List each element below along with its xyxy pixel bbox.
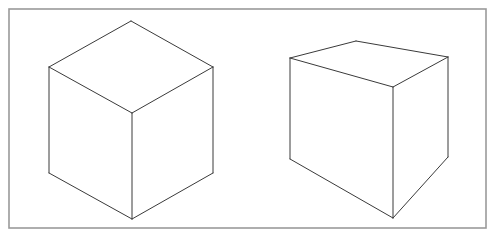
diagram-canvas: [0, 0, 493, 236]
diagram-frame: [9, 9, 486, 228]
cube-diagram: [0, 0, 493, 236]
